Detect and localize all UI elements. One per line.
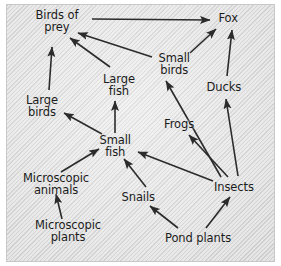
node-label-ducks: Ducks [207,81,242,94]
node-label-frogs: Frogs [164,118,194,131]
node-label-fox: Fox [219,12,238,25]
node-label-large_birds: Large birds [26,94,58,119]
node-label-microscopic_plants: Microscopic plants [35,219,101,244]
node-label-small_birds: Small birds [159,52,190,77]
node-label-small_fish: Small fish [100,134,131,159]
node-label-snails: Snails [122,191,155,204]
node-label-large_fish: Large fish [103,73,135,98]
food-web-diagram: Birds of preyFoxSmall birdsLarge fishDuc… [0,0,281,266]
node-label-pond_plants: Pond plants [165,232,231,245]
node-label-insects: Insects [214,181,254,194]
node-label-birds_of_prey: Birds of prey [36,9,79,34]
node-label-microscopic_animals: Microscopic animals [23,172,89,197]
